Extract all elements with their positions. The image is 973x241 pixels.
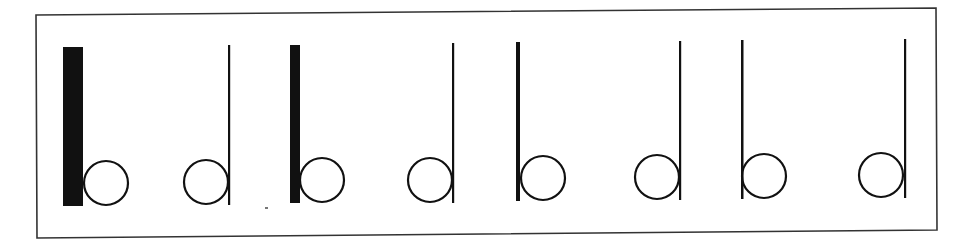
glyph-d-4 (408, 43, 454, 203)
glyph-b-1 (63, 47, 128, 206)
bd-glyph-diagram (0, 0, 973, 241)
glyph-stem (290, 45, 300, 203)
glyph-bowl (408, 158, 452, 202)
glyph-bowl (184, 160, 228, 204)
glyph-d-6 (635, 41, 681, 200)
glyph-bowl (521, 156, 565, 200)
glyph-bowl (742, 154, 786, 198)
glyph-bowl (300, 158, 344, 202)
glyph-bowl (635, 155, 679, 199)
glyph-d-2 (184, 45, 230, 205)
glyph-b-5 (516, 42, 565, 201)
glyph-b-7 (741, 40, 786, 199)
glyph-b-3 (290, 45, 344, 203)
glyph-stem (228, 45, 230, 205)
glyph-stem (452, 43, 454, 203)
glyph-bowl (859, 153, 903, 197)
speck-mark (265, 207, 268, 209)
glyph-stem (63, 47, 83, 206)
glyph-bowl (84, 161, 128, 205)
glyph-stem (679, 41, 681, 200)
diagram-frame (36, 8, 937, 238)
glyph-stem (741, 40, 744, 199)
glyph-row (63, 39, 906, 206)
glyph-stem (516, 42, 520, 201)
glyph-d-8 (859, 39, 906, 198)
glyph-stem (904, 39, 906, 198)
